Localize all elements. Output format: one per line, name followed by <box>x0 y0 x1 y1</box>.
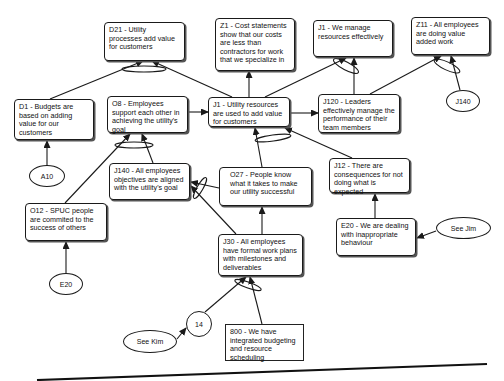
ellipse-see-kim[interactable]: See Kim <box>123 330 177 353</box>
node-j12[interactable]: J12 - There are consequences for not doi… <box>329 158 410 193</box>
ellipse-e20-label: E20 <box>60 281 72 288</box>
bottom-rule <box>37 364 487 380</box>
node-j1-manage[interactable]: J1 - We manage resources effectively <box>313 20 393 57</box>
edge-j140-o8 <box>142 134 153 163</box>
node-o12-label: O12 - SPUC people are commited to the su… <box>30 206 94 232</box>
node-j140[interactable]: J140 - All employees objectives are alig… <box>109 163 190 200</box>
and-ellipse-d21 <box>122 66 166 72</box>
ellipse-see-jim-label: See Jim <box>451 225 476 232</box>
node-800[interactable]: 800 - We have integrated budgeting and r… <box>225 324 304 361</box>
node-j30[interactable]: J30 - All employees have formal work pla… <box>218 234 303 276</box>
ellipse-j140-label: J140 <box>455 98 470 105</box>
node-z1-label: Z1 - Cost statements show that our costs… <box>220 21 287 64</box>
node-j12-label: J12 - There are consequences for not doi… <box>334 161 403 196</box>
node-e20[interactable]: E20 - We are dealing with inappropriate … <box>336 218 416 256</box>
node-j1-utility[interactable]: J1 - Utility resources are used to add v… <box>208 97 290 127</box>
node-800-label: 800 - We have integrated budgeting and r… <box>230 327 296 362</box>
node-o12[interactable]: O12 - SPUC people are commited to the su… <box>25 203 107 241</box>
node-z11[interactable]: Z11 - All employees are doing value adde… <box>411 17 490 55</box>
node-d1-label: D1 - Budgets are based on adding value f… <box>19 102 73 137</box>
and-ellipse-j30 <box>234 277 262 292</box>
node-o8[interactable]: O8 - Employees support each other in ach… <box>107 96 188 133</box>
and-ellipse-j1 <box>255 133 291 144</box>
ellipse-a10[interactable]: A10 <box>29 165 65 187</box>
and-ellipse-j1manage <box>332 56 360 76</box>
node-d1[interactable]: D1 - Budgets are based on adding value f… <box>14 99 94 140</box>
node-d21[interactable]: D21 - Utility processes add value for cu… <box>104 22 185 61</box>
ellipse-14[interactable]: 14 <box>186 311 212 337</box>
node-j140-label: J140 - All employees objectives are alig… <box>114 166 184 192</box>
edge-800-j30 <box>250 277 262 324</box>
edge-o27-j1 <box>255 128 262 167</box>
diagram-canvas: D21 - Utility processes add value for cu… <box>0 0 504 381</box>
ellipse-e20[interactable]: E20 <box>49 273 83 295</box>
node-j30-label: J30 - All employees have formal work pla… <box>223 237 297 272</box>
node-z11-label: Z11 - All employees are doing value adde… <box>416 20 479 46</box>
ellipse-see-jim[interactable]: See Jim <box>436 217 491 239</box>
ellipse-see-kim-label: See Kim <box>137 338 163 345</box>
node-j120-label: J120 - Leaders effectively manage the pe… <box>323 97 395 132</box>
ellipse-j140[interactable]: J140 <box>446 90 480 112</box>
node-j120[interactable]: J120 - Leaders effectively manage the pe… <box>318 94 400 133</box>
node-d21-label: D21 - Utility processes add value for cu… <box>109 25 175 51</box>
node-j1-manage-label: J1 - We manage resources effectively <box>318 23 383 41</box>
edge-seejim-e20 <box>417 231 436 238</box>
edge-j120-z11 <box>370 56 441 94</box>
node-o27[interactable]: O27 - People know what it takes to make … <box>219 167 312 206</box>
node-z1[interactable]: Z1 - Cost statements show that our costs… <box>215 18 295 71</box>
ellipse-a10-label: A10 <box>41 173 53 180</box>
node-o27-label: O27 - People know what it takes to make … <box>230 170 298 196</box>
and-ellipse-o8 <box>115 142 153 148</box>
edge-14-j30 <box>205 277 246 312</box>
node-j1-utility-label: J1 - Utility resources are used to add v… <box>213 100 282 126</box>
node-o8-label: O8 - Employees support each other in ach… <box>112 99 180 134</box>
edge-seekim-14 <box>177 328 186 339</box>
and-ellipse-z11 <box>433 56 462 75</box>
node-e20-label: E20 - We are dealing with inappropriate … <box>341 221 408 247</box>
ellipse-14-label: 14 <box>195 321 203 328</box>
